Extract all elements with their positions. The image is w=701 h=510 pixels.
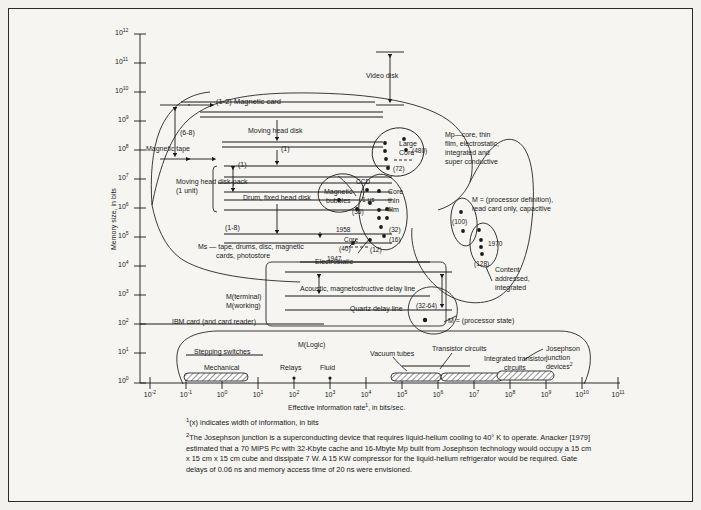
- label-40: (40): [339, 245, 351, 252]
- label-m-processor-state: M = (processor state): [448, 317, 514, 325]
- label-josephson-mark: 2: [570, 361, 573, 367]
- label-tape-width: (6-8): [180, 129, 195, 137]
- label-mp-1: Mp—core, thin: [445, 131, 491, 139]
- y-tick-2: 102: [118, 319, 129, 327]
- label-16: (16): [389, 236, 401, 243]
- label-core-thin-1: Core: [388, 188, 403, 196]
- label-magnetic-card: (1-2) Magnetic card: [216, 98, 281, 107]
- label-magnetic-bubbles-1: Magnetic: [324, 188, 352, 196]
- x-tick-8: 108: [505, 391, 516, 399]
- label-electrostatic: Electrostatic: [315, 258, 353, 266]
- point-core-thin-film: [379, 225, 383, 229]
- label-ibm-card: IBM card (and card reader): [172, 318, 256, 326]
- mp-left-arc: [412, 228, 436, 286]
- point-core-thin-film-12: [368, 238, 372, 242]
- y-tick-9: 109: [118, 116, 129, 124]
- x-tick-0: 100: [217, 391, 228, 399]
- label-ms-2: cards, photostore: [216, 252, 270, 260]
- region-outlines: [151, 92, 590, 384]
- point-core-thin-film-16: [382, 234, 386, 238]
- y-tick-6: 106: [118, 203, 129, 211]
- y-tick-3: 103: [118, 290, 129, 298]
- label-acoustic: Acoustic, magnetostructive delay line: [300, 285, 415, 293]
- point-core-thin-film: [385, 216, 389, 220]
- label-stepping-switches: Stepping switches: [194, 348, 250, 356]
- point-relays-tick: [292, 376, 295, 379]
- label-128: (128): [474, 260, 489, 267]
- label-drum-width: (1-8): [225, 224, 240, 232]
- label-m-working: M(working): [226, 302, 261, 310]
- label-josephson-3: devices2: [546, 363, 573, 371]
- label-content-3: integrated: [495, 284, 526, 292]
- x-tick-6: 106: [433, 391, 444, 399]
- label-mp-2: film, electrostatic,: [445, 140, 499, 148]
- point-proc-definition-100: [459, 210, 463, 214]
- mp-connector: [438, 182, 470, 210]
- label-m-logic: M(Logic): [298, 341, 325, 349]
- label-mp-3: integrated and: [445, 149, 490, 157]
- y-tick-4: 104: [118, 261, 129, 269]
- label-m-processor-def-2: read card only, capacitive: [472, 205, 551, 213]
- label-josephson-2: junction: [546, 354, 570, 362]
- label-integrated-transistor-2: circuits: [504, 364, 526, 372]
- label-1958: 1958: [336, 226, 350, 233]
- mechanical-band: [184, 373, 248, 381]
- technology-bands: [184, 371, 554, 381]
- point-fluid-tick: [328, 376, 331, 379]
- point-content-addressed: [480, 252, 484, 256]
- label-magnetic-bubbles-2: bubbles: [326, 197, 351, 205]
- label-mhdp-width: (1): [238, 161, 247, 169]
- label-ms-1: Ms — tape, drums, disc, magnetic: [198, 243, 304, 251]
- label-moving-head-disk: Moving head disk: [248, 127, 302, 135]
- x-tick-10: 1010: [575, 391, 588, 399]
- footnote-2-line-1: The Josephson junction is a superconduct…: [189, 433, 590, 442]
- x-tick-11: 1011: [611, 391, 624, 399]
- josephson-band: [497, 371, 554, 380]
- y-tick-12: 1012: [115, 29, 128, 37]
- footnote-2-line-3: x 15 cm x 15 cm cube and dissipate 7 W. …: [186, 454, 577, 463]
- x-axis-title-prefix: Effective information rate: [288, 404, 365, 411]
- label-core: Core: [344, 236, 358, 243]
- content-lead: [486, 267, 492, 281]
- label-drum: Drum, fixed head disk: [243, 194, 311, 202]
- label-josephson-3-text: devices: [546, 363, 570, 370]
- x-tick-9: 109: [541, 391, 552, 399]
- label-content-2: addressed,: [495, 275, 530, 283]
- label-1us: 1 µs: [362, 196, 374, 203]
- x-tick-2: 102: [289, 391, 300, 399]
- y-tick-11: 1011: [115, 58, 128, 66]
- footnote-2: 2The Josephson junction is a superconduc…: [186, 433, 606, 475]
- label-32-64: (32-64): [416, 302, 437, 309]
- label-integrated-transistor-1: Integrated transistor: [484, 355, 546, 363]
- point-content-addressed: [479, 245, 483, 249]
- x-tick--1: 10-1: [180, 391, 192, 399]
- y-tick-5: 105: [118, 232, 129, 240]
- point-proc-definition: [461, 229, 465, 233]
- footnote-1: 1(x) indicates width of information, in …: [186, 418, 606, 429]
- point-large-core: [384, 157, 388, 161]
- x-axis-title: Effective information rate1, in bits/sec…: [288, 404, 405, 412]
- footnote-2-line-2: estimated that a 70 MIPS Pc with 32-Kbyt…: [186, 444, 591, 453]
- transistor-band: [441, 373, 503, 381]
- x-tick-7: 107: [469, 391, 480, 399]
- label-moving-head-disk-pack: Moving head disk-pack: [176, 178, 248, 186]
- footnote-2-line-4: delays of 0.06 ns and memory access time…: [186, 465, 412, 474]
- label-mechanical: Mechanical: [204, 364, 239, 372]
- vacuum-lead: [393, 357, 407, 371]
- label-video-disk: Video disk: [366, 72, 398, 80]
- label-magnetic-tape: Magnetic tape: [146, 145, 190, 153]
- label-quartz: Quartz delay line: [350, 305, 403, 313]
- label-content-1: Content: [495, 266, 520, 274]
- x-tick--2: 10-2: [144, 391, 156, 399]
- disk-bracket: [213, 166, 217, 212]
- vacuum-tubes-band: [391, 373, 441, 381]
- label-36: (36): [352, 208, 364, 215]
- label-mhd-width: (1): [281, 145, 290, 153]
- point-large-core-72: [386, 166, 390, 170]
- label-fluid: Fluid: [320, 364, 335, 372]
- y-tick-0: 100: [118, 377, 129, 385]
- y-tick-10: 1010: [115, 87, 128, 95]
- x-tick-1: 101: [253, 391, 264, 399]
- point-core-thin-film: [377, 216, 381, 220]
- label-100: (100): [452, 218, 467, 225]
